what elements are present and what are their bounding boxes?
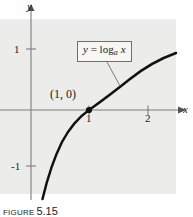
equation-callout-box: y = logax (77, 41, 132, 62)
figure-caption: FIGURE5.15 (3, 201, 58, 217)
point-coordinate-label: (1, 0) (50, 87, 76, 102)
callout-leader-line (107, 62, 120, 86)
x-tick-label-1: 1 (86, 112, 92, 124)
x-tick-label-2: 2 (145, 112, 151, 124)
y-axis-label: y (27, 0, 32, 12)
callout-log-base: a (114, 48, 118, 57)
y-tick-label-1: 1 (14, 43, 20, 55)
caption-word: FIGURE (3, 208, 34, 217)
caption-number: 5.15 (36, 205, 57, 217)
y-tick-label-minus-1: -1 (11, 160, 20, 172)
log-curve (43, 53, 177, 199)
plot-canvas (0, 0, 193, 200)
x-axis-label: x (183, 103, 188, 115)
callout-operator: = log (88, 43, 114, 55)
callout-argument: x (121, 43, 126, 55)
figure-container: y x 1 -1 1 2 (1, 0) y = logax FIGURE5.15 (0, 0, 193, 217)
